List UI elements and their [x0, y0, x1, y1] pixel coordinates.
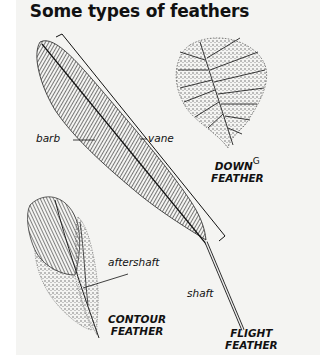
caption-contour-feather: CONTOUR FEATHER: [108, 313, 166, 337]
caption-down-feather: DOWNG FEATHER: [211, 156, 264, 184]
down-feather: [176, 38, 266, 148]
caption-flight-feather: FLIGHT FEATHER: [225, 327, 278, 351]
glossary-marker: G: [253, 156, 260, 166]
label-shaft: shaft: [187, 287, 213, 299]
label-barb: barb: [36, 132, 60, 144]
label-aftershaft: aftershaft: [108, 256, 159, 268]
contour-feather: [28, 197, 99, 338]
label-vane: vane: [148, 132, 174, 144]
